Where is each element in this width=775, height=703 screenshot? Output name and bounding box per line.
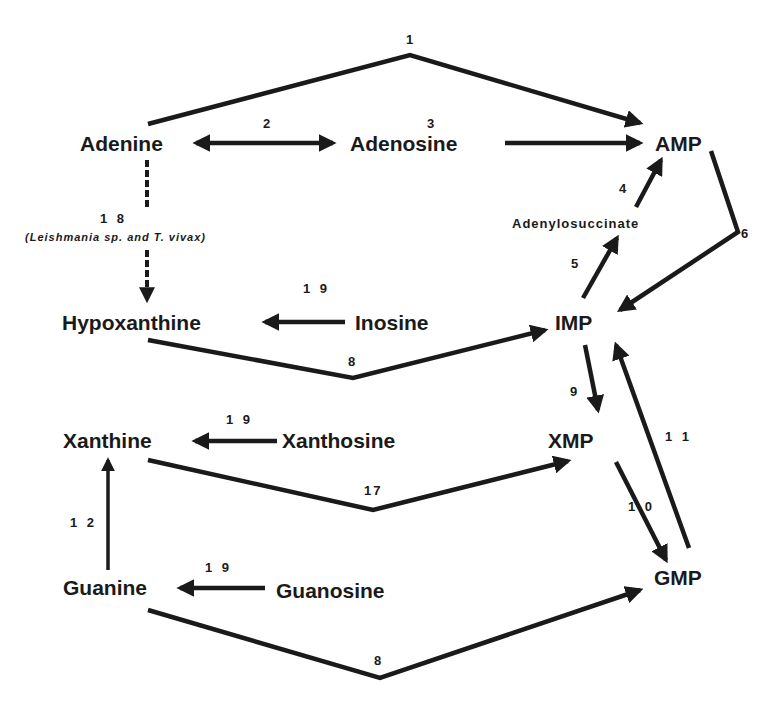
reaction-5: 5 — [571, 256, 581, 271]
edge-5 — [583, 238, 617, 298]
node-inosine: Inosine — [355, 311, 429, 334]
edge-8-guanine — [148, 590, 640, 678]
edge-1 — [148, 55, 640, 124]
reaction-11: 1 1 — [665, 429, 692, 444]
edge-11 — [616, 345, 689, 548]
node-adenosine: Adenosine — [350, 132, 457, 155]
reaction-19-xanthosine: 1 9 — [226, 412, 253, 427]
edge-4 — [636, 160, 661, 207]
reaction-9: 9 — [570, 384, 580, 399]
node-guanine: Guanine — [63, 576, 147, 599]
node-hypoxanthine: Hypoxanthine — [62, 311, 201, 334]
node-adenylosuccinate: Adenylosuccinate — [512, 216, 639, 231]
reaction-12: 1 2 — [70, 515, 97, 530]
reaction-8-hypoxanthine: 8 — [348, 354, 358, 369]
reaction-18: 1 8 — [100, 211, 127, 226]
edge-8-hypoxanthine — [148, 330, 545, 378]
node-xmp: XMP — [548, 429, 594, 452]
node-xanthine: Xanthine — [63, 429, 152, 452]
reaction-3: 3 — [427, 116, 437, 131]
edge-17 — [148, 460, 568, 510]
reaction-labels: 1 2 3 4 5 6 1 8 (Leishmania sp. and T. v… — [25, 32, 751, 668]
edge-9 — [585, 345, 598, 410]
node-amp: AMP — [655, 132, 702, 155]
pathway-diagram: Adenine Adenosine AMP Adenylosuccinate H… — [0, 0, 775, 703]
reaction-1: 1 — [406, 32, 416, 47]
reaction-18-note: (Leishmania sp. and T. vivax) — [25, 231, 206, 243]
node-adenine: Adenine — [80, 132, 163, 155]
reaction-2: 2 — [263, 116, 273, 131]
reaction-6: 6 — [741, 226, 751, 241]
reaction-10: 1 0 — [628, 499, 655, 514]
node-guanosine: Guanosine — [276, 579, 385, 602]
reaction-8-guanine: 8 — [374, 653, 384, 668]
reaction-19-inosine: 1 9 — [303, 281, 330, 296]
node-gmp: GMP — [654, 566, 702, 589]
node-xanthosine: Xanthosine — [282, 429, 395, 452]
reaction-17: 17 — [364, 483, 382, 498]
reaction-19-guanosine: 1 9 — [205, 560, 232, 575]
node-imp: IMP — [555, 311, 592, 334]
reaction-4: 4 — [619, 181, 629, 196]
nodes: Adenine Adenosine AMP Adenylosuccinate H… — [62, 132, 702, 602]
